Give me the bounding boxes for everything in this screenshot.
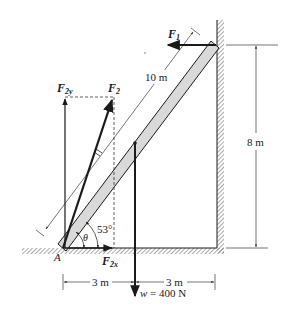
wall (217, 20, 224, 253)
ladder-length-label: 10 m (145, 71, 168, 83)
dist-right-label: 3 m (166, 276, 183, 288)
ladder-length-dimension: 10 m (36, 28, 200, 236)
f2-label: F (107, 81, 116, 95)
weight-value: = 400 N (147, 287, 186, 299)
horizontal-dimensions: 3 m 3 m (63, 274, 215, 290)
ladder-diagram: 10 m F1 F2y F2 F2x θ 53° A w = 400 N (0, 0, 283, 321)
ladder (58, 41, 219, 251)
svg-text:F1: F1 (167, 27, 180, 42)
svg-text:w = 400 N: w = 400 N (140, 287, 186, 299)
f2-subscript: 2 (115, 87, 120, 96)
point-a-label: A (53, 251, 61, 263)
f1-label: F (167, 27, 176, 41)
height-dimension: 8 m (226, 45, 278, 248)
force-f1: F1 (167, 27, 216, 45)
angle-label: 53° (97, 223, 112, 235)
f2y-subscript: 2y (64, 87, 73, 96)
ground (22, 248, 224, 254)
theta-label: θ (83, 232, 88, 243)
f2x-label: F (101, 254, 110, 268)
height-label: 8 m (247, 136, 264, 148)
f2y-label: F (56, 81, 65, 95)
svg-text:F2y: F2y (56, 81, 73, 96)
f2x-subscript: 2x (109, 260, 118, 269)
dist-left-label: 3 m (92, 276, 109, 288)
stray-dot (144, 52, 146, 54)
svg-text:F2: F2 (107, 81, 120, 96)
svg-text:F2x: F2x (101, 254, 118, 269)
f1-subscript: 1 (176, 33, 180, 42)
